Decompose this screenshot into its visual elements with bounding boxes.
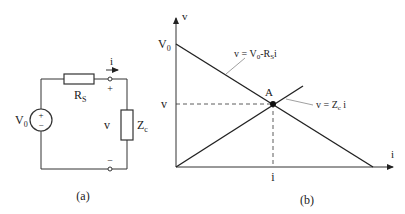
wire-right-top <box>112 79 127 110</box>
terminal-top <box>108 77 112 81</box>
wire-left-top <box>41 79 64 109</box>
y-axis-label: v <box>182 10 188 22</box>
voltage-label: v <box>104 118 110 132</box>
caption-b: (b) <box>300 193 314 207</box>
source-plus: + <box>38 110 43 120</box>
diagram-canvas: + − V0 RS i + − v Zc (a) v i V0 v i A <box>0 0 405 214</box>
impedance-line <box>176 86 303 167</box>
caption-a: (a) <box>76 189 89 203</box>
source-minus: − <box>38 120 43 130</box>
terminal-bottom <box>108 167 112 171</box>
load-line-graph: v i V0 v i A v = V0-RSi v = Zc i (b) <box>158 10 394 207</box>
resistor-label: RS <box>74 88 86 104</box>
circuit-schematic: + − V0 RS i + − v Zc (a) <box>15 55 148 203</box>
operating-point-a <box>270 101 276 107</box>
terminal-minus-label: − <box>107 155 113 166</box>
wire-bottom-left <box>41 131 108 169</box>
i-tick-label: i <box>271 170 275 184</box>
leader-line1 <box>226 58 245 74</box>
load-label: Zc <box>137 118 148 134</box>
wire-right-bottom <box>112 140 127 169</box>
impedance-line-equation: v = Zc i <box>316 99 346 112</box>
v-tick-label: v <box>161 97 167 111</box>
v0-tick-label: V0 <box>158 37 171 53</box>
terminal-plus-label: + <box>107 83 113 94</box>
source-label: V0 <box>15 113 28 129</box>
source-line-equation: v = V0-RSi <box>234 48 277 61</box>
current-label: i <box>110 55 113 67</box>
resistor-rs <box>64 74 94 84</box>
point-a-label: A <box>265 86 273 98</box>
x-axis-label: i <box>391 148 394 160</box>
load-zc <box>121 110 133 140</box>
leader-line2 <box>286 99 313 105</box>
